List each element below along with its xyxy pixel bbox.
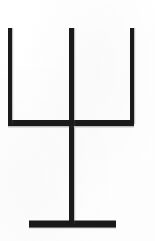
- left-prong-bleed: [12, 28, 13, 124]
- right-prong-bleed: [134, 28, 135, 124]
- trident-symbol-figure: [0, 0, 155, 241]
- crossbar-bleed: [8, 126, 134, 127]
- crossbar-stroke: [8, 120, 134, 126]
- center-stem-bleed: [74, 28, 75, 224]
- right-prong-stroke: [130, 28, 134, 124]
- base-bar-bleed: [29, 227, 116, 228]
- image-canvas: [0, 0, 155, 241]
- left-prong-stroke: [8, 28, 12, 124]
